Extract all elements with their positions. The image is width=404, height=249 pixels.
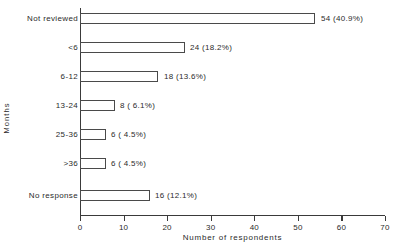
x-tick-5 xyxy=(298,216,299,221)
x-axis-title: Number of respondents xyxy=(80,233,385,242)
x-tick-label-3: 30 xyxy=(196,223,226,232)
bar[interactable] xyxy=(80,71,158,82)
x-tick-label-6: 60 xyxy=(326,223,356,232)
bar[interactable] xyxy=(80,129,106,140)
bar-value-label: 6 ( 4.5%) xyxy=(111,159,146,168)
x-tick-label-5: 50 xyxy=(283,223,313,232)
category-label: 25-36 xyxy=(4,130,78,139)
x-tick-3 xyxy=(211,216,212,221)
category-label: Not reviewed xyxy=(4,14,78,23)
bar-value-label: 54 (40.9%) xyxy=(321,14,363,23)
bar-value-label: 6 ( 4.5%) xyxy=(111,130,146,139)
category-label: >36 xyxy=(4,159,78,168)
bar[interactable] xyxy=(80,190,150,201)
bar[interactable] xyxy=(80,158,106,169)
x-tick-label-2: 20 xyxy=(152,223,182,232)
x-tick-0 xyxy=(80,216,81,221)
bar-value-label: 16 (12.1%) xyxy=(155,191,197,200)
x-axis-line xyxy=(80,215,385,216)
bar-value-label: 18 (13.6%) xyxy=(164,72,206,81)
x-tick-label-7: 70 xyxy=(370,223,400,232)
y-axis-line xyxy=(80,8,81,216)
x-tick-7 xyxy=(385,216,386,221)
x-tick-label-0: 0 xyxy=(65,223,95,232)
x-tick-1 xyxy=(124,216,125,221)
bar[interactable] xyxy=(80,100,115,111)
bar-value-label: 8 ( 6.1%) xyxy=(120,101,155,110)
x-tick-label-1: 10 xyxy=(109,223,139,232)
bar[interactable] xyxy=(80,42,185,53)
category-label: <6 xyxy=(4,43,78,52)
x-tick-2 xyxy=(167,216,168,221)
bar-chart: Months 0 10 20 30 40 50 60 70 Not review… xyxy=(0,0,404,249)
x-tick-6 xyxy=(341,216,342,221)
category-label: 13-24 xyxy=(4,101,78,110)
category-label: No response xyxy=(4,191,78,200)
category-label: 6-12 xyxy=(4,72,78,81)
bar-value-label: 24 (18.2%) xyxy=(190,43,232,52)
x-tick-label-4: 40 xyxy=(239,223,269,232)
x-tick-4 xyxy=(254,216,255,221)
plot-area: 0 10 20 30 40 50 60 70 Not reviewed 54 (… xyxy=(0,0,404,249)
bar[interactable] xyxy=(80,13,315,24)
